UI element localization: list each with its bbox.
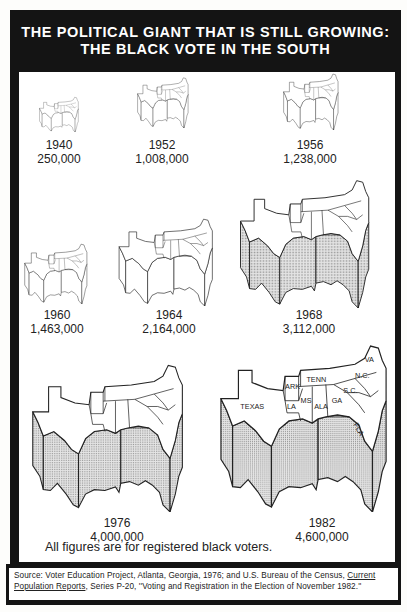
- state-labels-1982: TEXAS ARK LA MS ALA TENN GA S.C. N.C. VA…: [219, 340, 389, 512]
- svg-text:FLA: FLA: [352, 421, 366, 438]
- source-note: Source: Voter Education Project, Atlanta…: [9, 568, 398, 600]
- value-label: 1,008,000: [127, 152, 197, 166]
- value-label: 3,112,000: [269, 322, 349, 336]
- map-1964: [118, 216, 214, 306]
- caption-1956: 1956 1,238,000: [275, 138, 345, 166]
- svg-text:S.C.: S.C.: [343, 385, 357, 394]
- year-label: 1956: [275, 138, 345, 152]
- svg-text:VA: VA: [365, 355, 374, 364]
- map-1960: [24, 242, 88, 304]
- svg-text:TENN: TENN: [306, 375, 326, 384]
- svg-text:LA: LA: [287, 402, 296, 411]
- year-label: 1968: [269, 308, 349, 322]
- value-label: 2,164,000: [129, 322, 209, 336]
- map-1952: [137, 76, 189, 128]
- source-suffix: , Series P-20, ''Voting and Registration…: [85, 582, 361, 591]
- year-label: 1940: [29, 138, 89, 152]
- year-label: 1952: [127, 138, 197, 152]
- year-label: 1964: [129, 308, 209, 322]
- source-prefix: Source: Voter Education Project, Atlanta…: [14, 571, 347, 580]
- svg-text:N.C.: N.C.: [355, 371, 370, 380]
- year-label: 1976: [77, 516, 157, 530]
- svg-text:ARK: ARK: [285, 381, 300, 390]
- chart-frame: THE POLITICAL GIANT THAT IS STILL GROWIN…: [10, 10, 401, 566]
- svg-text:MS: MS: [301, 396, 312, 405]
- caption-1982: 1982 4,600,000: [277, 516, 367, 544]
- value-label: 250,000: [29, 152, 89, 166]
- caption-1960: 1960 1,463,000: [21, 308, 93, 336]
- svg-text:ALA: ALA: [314, 402, 328, 411]
- map-1968: [239, 176, 371, 308]
- svg-text:GA: GA: [332, 396, 343, 405]
- value-label: 4,600,000: [277, 530, 367, 544]
- map-1940: [39, 96, 79, 132]
- year-label: 1960: [21, 308, 93, 322]
- footnote: All figures are for registered black vot…: [45, 540, 272, 554]
- map-1976: [31, 360, 185, 512]
- year-label: 1982: [277, 516, 367, 530]
- title-line-2: THE BLACK VOTE IN THE SOUTH: [10, 41, 401, 58]
- caption-1964: 1964 2,164,000: [129, 308, 209, 336]
- value-label: 1,238,000: [275, 152, 345, 166]
- pictograph-panel: 1940 250,000 1952 1,008,000 1956 1,238,0…: [19, 72, 395, 562]
- svg-text:TEXAS: TEXAS: [240, 402, 264, 411]
- caption-1940: 1940 250,000: [29, 138, 89, 166]
- value-label: 1,463,000: [21, 322, 93, 336]
- caption-1968: 1968 3,112,000: [269, 308, 349, 336]
- title-line-1: THE POLITICAL GIANT THAT IS STILL GROWIN…: [10, 24, 401, 41]
- chart-title: THE POLITICAL GIANT THAT IS STILL GROWIN…: [10, 10, 401, 70]
- map-1956: [283, 72, 339, 130]
- caption-1952: 1952 1,008,000: [127, 138, 197, 166]
